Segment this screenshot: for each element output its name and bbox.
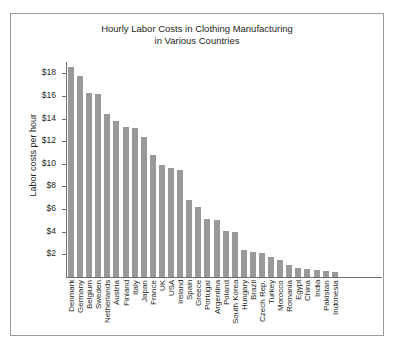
y-axis-tick: $10 (62, 164, 67, 165)
bar (259, 253, 265, 277)
y-axis-tick-label: $14 (42, 113, 56, 124)
bar (123, 127, 129, 278)
x-axis-label: Poland (223, 280, 229, 342)
x-axis-label: Netherlands (104, 280, 110, 342)
y-axis-tick: $18 (62, 73, 67, 74)
bar (332, 272, 338, 277)
y-axis-line (66, 62, 67, 278)
y-axis-tick-label: $16 (42, 90, 56, 101)
bar-column (323, 62, 329, 277)
x-axis-line (66, 277, 382, 278)
bar (241, 250, 247, 277)
bar (277, 260, 283, 277)
y-axis-tick: $16 (62, 96, 67, 97)
x-axis-label: Morocco (277, 280, 283, 342)
y-axis-title: Labor costs per hour (27, 114, 41, 197)
x-axis-label: Hungary (241, 280, 247, 342)
bar-column (177, 62, 183, 277)
y-axis-tick: $4 (62, 232, 67, 233)
bar-column (268, 62, 274, 277)
bar-column (286, 62, 292, 277)
y-axis-tick-label: $6 (47, 203, 56, 214)
bar (186, 200, 192, 277)
x-axis-label: Egypt (295, 280, 301, 342)
bar (223, 231, 229, 277)
bar (95, 94, 101, 277)
bar-column (295, 62, 301, 277)
x-axis-label: Brazil (250, 280, 256, 342)
x-axis-label: Argentina (214, 280, 220, 342)
bar (113, 121, 119, 277)
y-axis-tick-label: $2 (47, 248, 56, 259)
bar-column (304, 62, 310, 277)
x-axis-label: Japan (141, 280, 147, 342)
bar-column (232, 62, 238, 277)
bar-column (314, 62, 320, 277)
x-axis-label: India (314, 280, 320, 342)
bar-column (277, 62, 283, 277)
bar (323, 271, 329, 277)
x-axis-label: Ireland (177, 280, 183, 342)
x-axis-label: France (150, 280, 156, 342)
bar-column (241, 62, 247, 277)
x-axis-label: Czech Rep. (259, 280, 265, 342)
bar (195, 207, 201, 277)
x-axis-labels: DenmarkGermanyBelgiumSwedenNetherlandsAu… (68, 280, 338, 342)
x-axis-label: UK (159, 280, 165, 342)
bar-column (195, 62, 201, 277)
bar (168, 168, 174, 277)
bar-column (104, 62, 110, 277)
bar-column (77, 62, 83, 277)
x-axis-label: Finland (123, 280, 129, 342)
bar (250, 252, 256, 277)
bar-column (250, 62, 256, 277)
y-axis-tick: $8 (62, 186, 67, 187)
bar-column (223, 62, 229, 277)
y-axis-tick-label: $12 (42, 135, 56, 146)
x-axis-label: Belgium (86, 280, 92, 342)
x-axis-label: South Korea (232, 280, 238, 342)
bar-series (68, 62, 338, 277)
bar (295, 268, 301, 277)
bar-column (141, 62, 147, 277)
x-axis-label: Germany (77, 280, 83, 342)
x-axis-label: Denmark (68, 280, 74, 342)
x-axis-label: Austria (113, 280, 119, 342)
x-axis-label: Turkey (268, 280, 274, 342)
bar-column (214, 62, 220, 277)
bar (177, 170, 183, 278)
x-axis-label: Spain (186, 280, 192, 342)
x-axis-label: Italy (132, 280, 138, 342)
y-axis-tick: $14 (62, 119, 67, 120)
y-axis-tick-label: $4 (47, 226, 56, 237)
bar (104, 114, 110, 277)
bar (159, 165, 165, 277)
bar (314, 270, 320, 277)
x-axis-label: Greece (195, 280, 201, 342)
x-axis-label: Pakistan (323, 280, 329, 342)
bar (68, 67, 74, 277)
y-axis-tick: $12 (62, 141, 67, 142)
bar-column (332, 62, 338, 277)
plot-area: $2$4$6$8$10$12$14$16$18 (66, 62, 384, 277)
bar-column (204, 62, 210, 277)
bar (304, 269, 310, 277)
bar (204, 219, 210, 277)
chart-title: Hourly Labor Costs in Clothing Manufactu… (11, 23, 383, 47)
bar (141, 137, 147, 277)
y-axis-tick-label: $10 (42, 158, 56, 169)
y-axis-tick-label: $18 (42, 67, 56, 78)
x-axis-label: Portugal (204, 280, 210, 342)
bar-column (132, 62, 138, 277)
x-axis-label: Romania (286, 280, 292, 342)
bar-column (86, 62, 92, 277)
bar-column (123, 62, 129, 277)
bar (286, 265, 292, 277)
bar (268, 257, 274, 277)
bar-column (168, 62, 174, 277)
bar (86, 93, 92, 277)
bar (150, 155, 156, 277)
x-axis-label: Sweden (95, 280, 101, 342)
bar-column (113, 62, 119, 277)
x-axis-label: USA (168, 280, 174, 342)
